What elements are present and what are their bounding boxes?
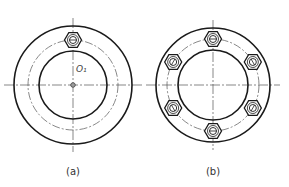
figure-label-a: (a) (66, 166, 80, 177)
flange-bolt-diagram (0, 0, 289, 187)
hex-nut-icon (244, 101, 261, 116)
hex-nut-icon (244, 55, 261, 70)
center-label-o1: O₁ (76, 64, 87, 74)
figure-a (4, 18, 142, 152)
figure-label-b: (b) (206, 166, 220, 177)
hex-nut-icon (205, 32, 222, 47)
hex-nut-icon (205, 124, 222, 139)
hex-nut-icon (65, 33, 82, 48)
hex-nut-icon (165, 101, 182, 116)
figure-b (146, 20, 280, 150)
hex-nut-icon (165, 55, 182, 70)
